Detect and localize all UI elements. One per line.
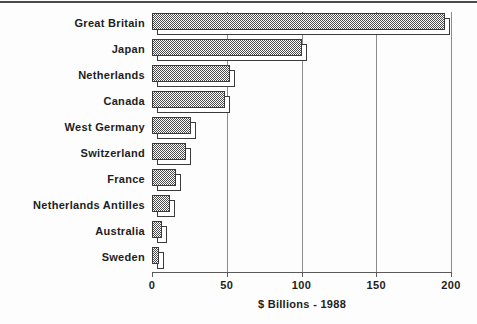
bar[interactable] — [152, 91, 225, 108]
bar-row: France — [0, 168, 477, 194]
bar[interactable] — [152, 39, 302, 56]
bar[interactable] — [152, 195, 170, 212]
bar[interactable] — [152, 65, 230, 82]
bar-row: Sweden — [0, 246, 477, 272]
x-tick-label-50: 50 — [220, 279, 233, 291]
x-tick-200 — [451, 272, 452, 277]
x-tick-150 — [376, 272, 377, 277]
bar[interactable] — [152, 247, 159, 264]
x-tick-100 — [302, 272, 303, 277]
bar[interactable] — [152, 13, 445, 30]
bar[interactable] — [152, 169, 176, 186]
bar-row: Netherlands Antilles — [0, 194, 477, 220]
bar-row: West Germany — [0, 116, 477, 142]
bar-row: Japan — [0, 38, 477, 64]
category-label: Netherlands Antilles — [33, 199, 145, 211]
x-tick-50 — [227, 272, 228, 277]
category-label: Canada — [103, 95, 145, 107]
category-label: Netherlands — [78, 69, 145, 81]
bar-row: Canada — [0, 90, 477, 116]
bar[interactable] — [152, 117, 191, 134]
bar-chart: Great BritainJapanNetherlandsCanadaWest … — [0, 0, 477, 324]
bar[interactable] — [152, 221, 162, 238]
x-tick-label-100: 100 — [292, 279, 312, 291]
category-label: Switzerland — [81, 147, 145, 159]
bar-row: Netherlands — [0, 64, 477, 90]
chart-page: Great BritainJapanNetherlandsCanadaWest … — [0, 0, 477, 324]
category-label: West Germany — [65, 121, 145, 133]
category-label: Great Britain — [74, 17, 145, 29]
x-tick-label-0: 0 — [149, 279, 156, 291]
category-label: Japan — [112, 43, 145, 55]
bar[interactable] — [152, 143, 186, 160]
category-label: Sweden — [102, 251, 145, 263]
category-label: Australia — [95, 225, 145, 237]
x-tick-label-200: 200 — [441, 279, 461, 291]
x-tick-0 — [152, 272, 153, 277]
x-axis-title: $ Billions - 1988 — [152, 298, 452, 310]
x-tick-label-150: 150 — [366, 279, 386, 291]
category-label: France — [107, 173, 145, 185]
bar-row: Switzerland — [0, 142, 477, 168]
bar-row: Great Britain — [0, 12, 477, 38]
bar-row: Australia — [0, 220, 477, 246]
